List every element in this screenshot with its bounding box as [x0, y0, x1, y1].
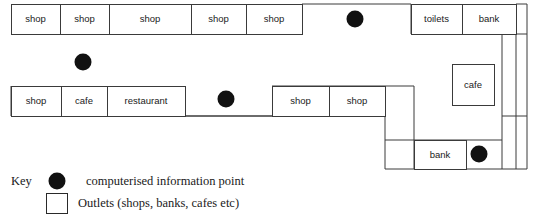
outlet-unit-restaurant[interactable]: restaurant [108, 87, 186, 117]
outlet-label: shop [290, 95, 311, 106]
outlet-unit-cafe[interactable]: cafe [453, 65, 495, 106]
floor-plan-diagram: shopshopshopshopshoptoiletsbankshopcafer… [0, 0, 540, 219]
outlet-label: shop [347, 95, 368, 106]
outlet-label: shop [208, 13, 229, 24]
outlet-label: shop [264, 13, 285, 24]
outlet-label: restaurant [125, 95, 168, 106]
outlet-units: shopshopshopshopshoptoiletsbankshopcafer… [12, 5, 517, 170]
outlet-label: shop [26, 95, 47, 106]
key-outlet-square-icon [47, 194, 68, 214]
outlet-unit-shop[interactable]: shop [247, 5, 303, 35]
outlet-label: shop [25, 13, 46, 24]
outlet-label: shop [74, 13, 95, 24]
key-info-point-label: computerised information point [86, 174, 245, 188]
outlet-unit-cafe[interactable]: cafe [62, 87, 108, 117]
outlet-unit-bank[interactable]: bank [415, 141, 467, 170]
key-heading: Key [11, 174, 33, 188]
outlet-label: bank [430, 149, 451, 160]
key-info-point-dot-icon [49, 173, 66, 190]
outlet-unit-shop[interactable]: shop [273, 87, 330, 117]
outlet-label: toilets [424, 13, 449, 24]
dot-top-centre-icon[interactable] [347, 11, 364, 28]
dot-lower-right-icon[interactable] [471, 146, 488, 163]
outlet-unit-shop[interactable]: shop [12, 87, 62, 117]
outlet-unit-toilets[interactable]: toilets [412, 5, 463, 35]
key-legend: Key computerised information point Outle… [11, 173, 245, 214]
outlet-unit-bank[interactable]: bank [463, 5, 517, 35]
outlet-label: cafe [464, 79, 482, 90]
outlet-unit-shop[interactable]: shop [12, 5, 61, 35]
key-outlet-label: Outlets (shops, banks, cafes etc) [78, 196, 239, 210]
outlet-label: shop [140, 13, 161, 24]
outlet-unit-shop[interactable]: shop [110, 5, 192, 35]
outlet-label: cafe [75, 95, 93, 106]
floor-plan-svg: shopshopshopshopshoptoiletsbankshopcafer… [0, 0, 540, 219]
dot-upper-left-icon[interactable] [75, 54, 92, 71]
outlet-unit-shop[interactable]: shop [61, 5, 110, 35]
outlet-label: bank [479, 13, 500, 24]
dot-mid-centre-icon[interactable] [218, 91, 235, 108]
outlet-unit-shop[interactable]: shop [330, 87, 386, 117]
outlet-unit-shop[interactable]: shop [192, 5, 247, 35]
